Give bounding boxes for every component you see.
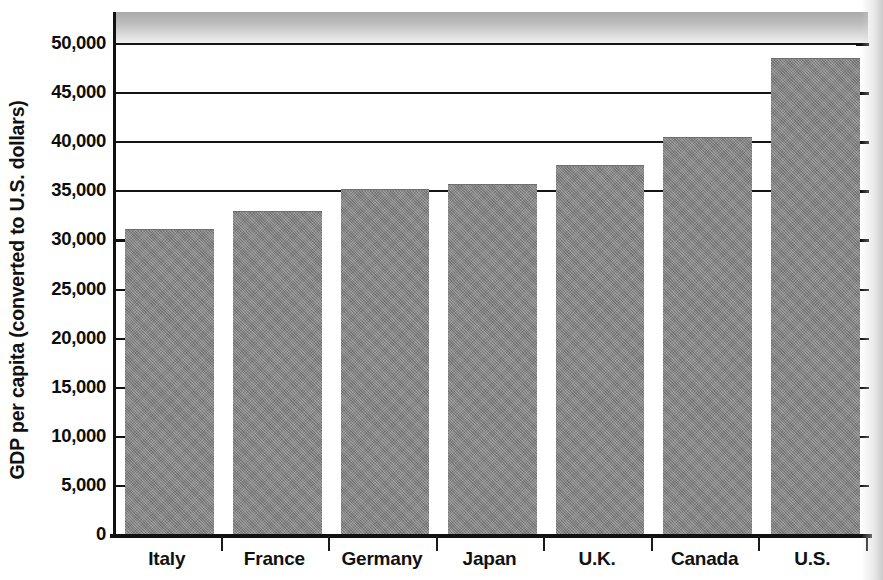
x-tick-label: Canada [671,548,738,570]
y-tick-label: 45,000 [34,81,106,103]
x-tick-label: Germany [341,548,422,570]
y-tick-label: 10,000 [34,425,106,447]
bar [448,184,537,534]
y-tick-label: 50,000 [34,32,106,54]
x-tick-label: U.S. [794,548,830,570]
bar [341,189,430,534]
bar-chart: GDP per capita (converted to U.S. dollar… [0,0,883,580]
y-tick-label: 20,000 [34,327,106,349]
x-tick-label: France [244,548,305,570]
bar [771,58,860,534]
y-tick-label: 0 [34,523,106,545]
y-axis-tick-labels: 05,00010,00015,00020,00025,00030,00035,0… [34,0,106,580]
bar [233,211,322,534]
x-axis-category-labels: ItalyFranceGermanyJapanU.K.CanadaU.S. [0,548,883,580]
bars [116,12,868,534]
y-tick-label: 40,000 [34,130,106,152]
plot-area [113,12,868,534]
y-tick-label: 30,000 [34,228,106,250]
plot-inner [116,12,868,534]
y-axis-title: GDP per capita (converted to U.S. dollar… [0,0,34,580]
bar [125,229,214,534]
y-tick-label: 5,000 [34,474,106,496]
x-tick-label: Japan [463,548,517,570]
bar [556,165,645,534]
y-tick-label: 15,000 [34,376,106,398]
bar [663,137,752,534]
y-tick-label: 35,000 [34,179,106,201]
x-tick-label: Italy [148,548,185,570]
y-tick-label: 25,000 [34,278,106,300]
x-tick-label: U.K. [578,548,615,570]
